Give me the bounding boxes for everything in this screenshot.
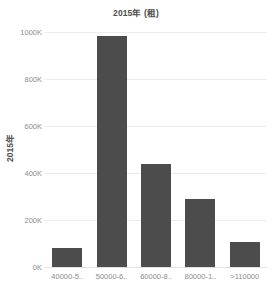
y-tick-label: 600K <box>4 122 42 131</box>
y-axis-tick-labels: 0K200K400K600K800K1000K <box>0 0 42 294</box>
bar-chart: 2015年 (租) 2015年 0K200K400K600K800K1000K … <box>0 0 272 294</box>
y-tick-label: 0K <box>4 263 42 272</box>
gridline <box>45 79 267 80</box>
x-tick-label: 60000-8.. <box>134 272 178 282</box>
x-tick-label: 40000-5.. <box>45 272 89 282</box>
plot-area <box>45 32 267 267</box>
gridline <box>45 126 267 127</box>
y-tick-label: 1000K <box>4 28 42 37</box>
bar[interactable] <box>52 248 82 267</box>
bar[interactable] <box>141 164 171 267</box>
y-tick-label: 400K <box>4 169 42 178</box>
bar[interactable] <box>185 199 215 267</box>
x-tick-label: 80000-1.. <box>178 272 222 282</box>
bar[interactable] <box>230 242 260 267</box>
gridline <box>45 32 267 33</box>
bar[interactable] <box>97 36 127 267</box>
x-tick-label: >110000 <box>223 272 267 282</box>
x-axis-tick-labels: 40000-5..50000-6..60000-8..80000-1..>110… <box>45 272 267 286</box>
x-axis-baseline <box>45 267 267 268</box>
x-tick-label: 50000-6.. <box>89 272 133 282</box>
y-tick-label: 800K <box>4 75 42 84</box>
y-tick-label: 200K <box>4 216 42 225</box>
